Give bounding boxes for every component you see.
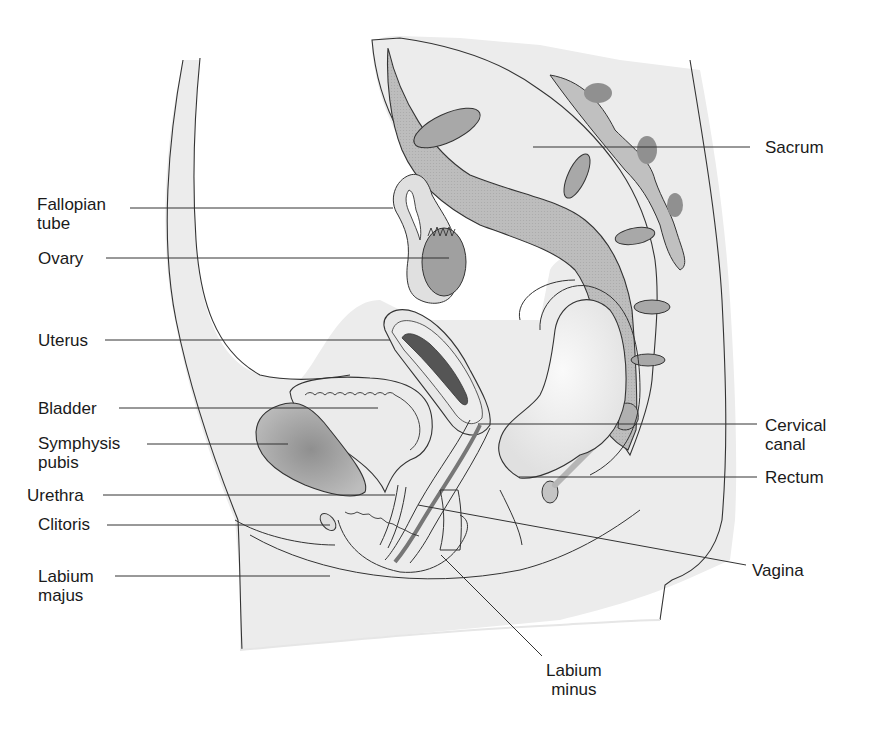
label-urethra: Urethra — [27, 486, 84, 505]
label-bladder: Bladder — [38, 399, 97, 418]
label-labium-minus: Labium minus — [546, 661, 602, 699]
anatomy-diagram: Fallopian tube Ovary Uterus Bladder Symp… — [0, 0, 875, 731]
pelvis-illustration — [0, 0, 875, 731]
label-symphysis-pubis: Symphysis pubis — [38, 434, 120, 472]
label-labium-majus: Labium majus — [38, 567, 94, 605]
label-sacrum: Sacrum — [765, 138, 824, 157]
label-cervical-canal: Cervical canal — [765, 416, 826, 454]
label-uterus: Uterus — [38, 331, 88, 350]
label-rectum: Rectum — [765, 468, 824, 487]
label-ovary: Ovary — [38, 249, 83, 268]
label-clitoris: Clitoris — [38, 515, 90, 534]
label-fallopian-tube: Fallopian tube — [37, 195, 106, 233]
label-vagina: Vagina — [752, 561, 804, 580]
